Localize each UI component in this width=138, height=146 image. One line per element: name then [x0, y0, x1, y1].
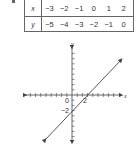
- y-intercept-label: −2: [61, 107, 69, 114]
- x-intercept-label: 2: [83, 97, 87, 104]
- origin-label: 0: [65, 97, 69, 104]
- x-axis-label: x: [123, 93, 127, 99]
- coordinate-graph: x y 0 2 −2: [0, 0, 138, 146]
- y-axis-label: y: [70, 41, 74, 47]
